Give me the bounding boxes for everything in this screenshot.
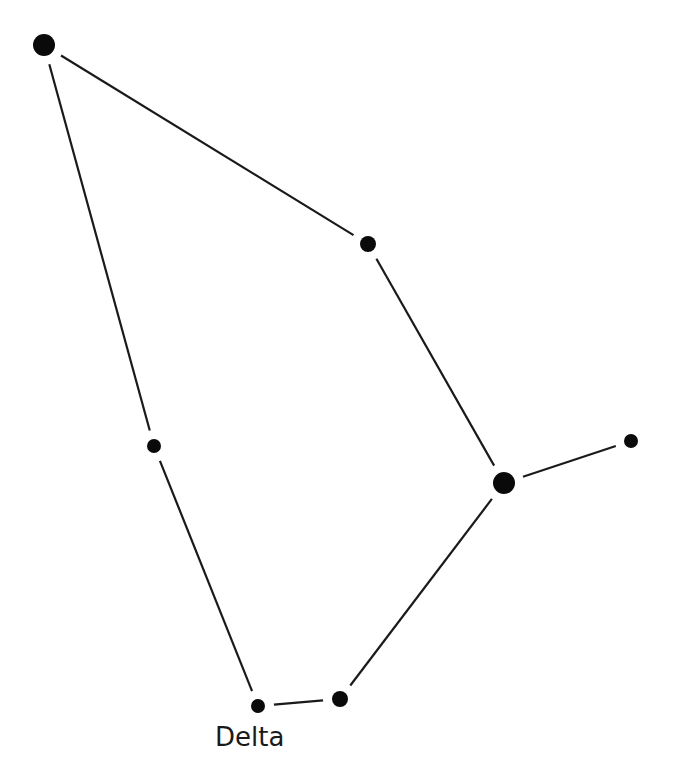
constellation-line (523, 446, 616, 477)
star-icon (360, 236, 376, 252)
star-icon (332, 691, 348, 707)
star-icon (147, 439, 161, 453)
star-icon (624, 434, 638, 448)
constellation-line (274, 700, 323, 704)
constellation-diagram (0, 0, 679, 765)
star-icon (33, 34, 55, 56)
constellation-line (61, 55, 353, 235)
star-label-delta: Delta (215, 722, 284, 752)
constellation-stars (33, 34, 638, 713)
constellation-line (160, 461, 252, 691)
constellation-lines (49, 55, 616, 704)
star-icon (493, 472, 515, 494)
star-delta (251, 699, 265, 713)
constellation-line (49, 64, 149, 430)
constellation-line (350, 499, 492, 686)
constellation-line (376, 259, 494, 466)
